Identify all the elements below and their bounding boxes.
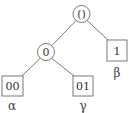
binary-tree-diagram: () 0 1 β 00 α 01 γ	[0, 0, 131, 113]
node-0-label: 0	[43, 46, 50, 59]
edge-0-to-00	[22, 59, 40, 77]
leaf-00-label: 00	[6, 80, 20, 93]
node-0: 0	[38, 44, 55, 61]
node-root-label: ()	[77, 8, 86, 21]
leaf-1-label: 1	[114, 45, 121, 58]
node-root: ()	[73, 6, 90, 23]
leaf-01-label: 01	[76, 80, 90, 93]
edge-0-to-01	[52, 59, 74, 77]
leaf-01: 01 γ	[73, 76, 93, 113]
leaf-00-greek-label: α	[8, 99, 16, 113]
edge-root-to-1	[87, 21, 108, 41]
leaf-01-greek-label: γ	[79, 99, 86, 113]
edge-root-to-0	[52, 21, 76, 46]
leaf-1-greek-label: β	[114, 66, 121, 80]
leaf-00: 00 α	[2, 76, 23, 113]
leaf-1: 1 β	[107, 40, 127, 80]
